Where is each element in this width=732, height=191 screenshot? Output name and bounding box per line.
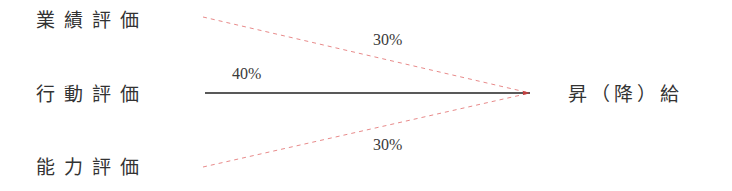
input-label-performance: 業績評価 [36,11,148,30]
weight-performance: 30% [373,32,402,48]
weight-ability: 30% [373,137,402,153]
line-ability [203,93,530,167]
weight-behavior: 40% [232,66,261,82]
input-label-ability: 能力評価 [36,158,148,177]
arrowhead-icon [523,91,530,95]
output-label-salary-change: 昇（降）給 [568,85,683,104]
input-label-behavior: 行動評価 [36,85,148,104]
